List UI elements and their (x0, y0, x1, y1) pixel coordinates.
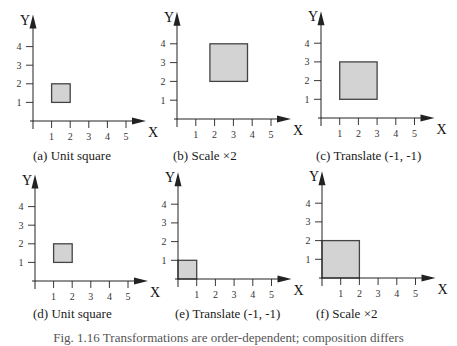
y-arrow-icon (32, 175, 39, 189)
y-arrow-icon (319, 171, 326, 185)
y-tick-label: 2 (17, 78, 22, 89)
square-shape (322, 241, 359, 278)
panel-b: 123451234XY (161, 10, 304, 140)
y-tick-label: 4 (162, 199, 167, 210)
x-tick-label: 4 (250, 289, 255, 300)
x-tick-label: 1 (338, 288, 343, 299)
y-tick-label: 3 (161, 57, 166, 68)
x-tick-label: 4 (394, 288, 399, 299)
x-axis-label: X (294, 283, 304, 298)
x-tick-label: 5 (124, 131, 129, 142)
x-axis-label: X (437, 122, 447, 137)
y-tick-label: 3 (162, 217, 167, 228)
y-tick-label: 4 (17, 41, 22, 52)
x-tick-label: 4 (250, 129, 255, 140)
x-tick-label: 5 (412, 128, 417, 139)
y-tick-label: 4 (19, 201, 24, 212)
panel-caption-f: (f) Scale ×2 (316, 306, 377, 322)
y-tick-label: 2 (162, 236, 167, 247)
x-tick-label: 1 (49, 131, 54, 142)
y-tick-label: 3 (17, 60, 22, 71)
y-tick-label: 2 (19, 238, 24, 249)
x-tick-label: 4 (107, 291, 112, 302)
y-tick-label: 4 (161, 38, 166, 49)
y-arrow-icon (175, 172, 182, 186)
square-shape (210, 44, 248, 82)
x-tick-label: 5 (269, 129, 274, 140)
y-axis-label: Y (164, 10, 174, 25)
panel-e: 123451234XY (162, 170, 304, 300)
x-axis-label: X (438, 282, 448, 297)
x-arrow-icon (134, 278, 148, 285)
x-axis-label: X (148, 125, 158, 140)
panel-d: 123451234XY (19, 173, 161, 302)
y-tick-label: 1 (17, 97, 22, 108)
x-tick-label: 1 (193, 129, 198, 140)
x-tick-label: 2 (357, 288, 362, 299)
x-arrow-icon (421, 115, 435, 122)
x-tick-label: 4 (393, 128, 398, 139)
panel-a: 123451234XY (17, 13, 159, 142)
x-tick-label: 3 (88, 291, 93, 302)
y-axis-label: Y (165, 170, 175, 185)
panel-caption-b: (b) Scale ×2 (173, 148, 237, 164)
x-tick-label: 3 (231, 129, 236, 140)
x-tick-label: 5 (126, 291, 131, 302)
square-shape (340, 62, 377, 99)
x-tick-label: 2 (356, 128, 361, 139)
panel-f: 123451234XY (306, 169, 448, 299)
x-arrow-icon (132, 118, 146, 125)
square-shape (54, 244, 73, 263)
x-tick-label: 3 (86, 131, 91, 142)
y-tick-label: 4 (305, 38, 310, 49)
x-tick-label: 1 (194, 289, 199, 300)
x-tick-label: 2 (68, 131, 73, 142)
panel-caption-e: (e) Translate (-1, -1) (175, 306, 280, 322)
panel-c: 123451234XY (305, 9, 447, 139)
y-axis-label: Y (309, 169, 319, 184)
y-tick-label: 1 (161, 95, 166, 106)
y-tick-label: 3 (306, 216, 311, 227)
y-tick-label: 1 (162, 255, 167, 266)
figure-caption: Fig. 1.16 Transformations are order-depe… (0, 330, 457, 346)
y-arrow-icon (318, 11, 325, 25)
y-tick-label: 2 (306, 235, 311, 246)
x-tick-label: 1 (337, 128, 342, 139)
x-tick-label: 2 (213, 289, 218, 300)
y-arrow-icon (30, 15, 37, 29)
y-tick-label: 2 (305, 75, 310, 86)
x-tick-label: 5 (269, 289, 274, 300)
x-tick-label: 4 (105, 131, 110, 142)
square-shape (178, 260, 197, 279)
y-tick-label: 3 (19, 220, 24, 231)
x-axis-label: X (150, 285, 160, 300)
y-tick-label: 1 (306, 254, 311, 265)
x-arrow-icon (277, 116, 291, 123)
x-axis-label: X (293, 123, 303, 138)
y-tick-label: 2 (161, 76, 166, 87)
x-tick-label: 3 (376, 288, 381, 299)
y-arrow-icon (174, 12, 181, 26)
y-tick-label: 1 (19, 257, 24, 268)
y-tick-label: 1 (305, 94, 310, 105)
y-tick-label: 3 (305, 56, 310, 67)
x-tick-label: 3 (232, 289, 237, 300)
x-tick-label: 5 (413, 288, 418, 299)
y-tick-label: 4 (306, 198, 311, 209)
square-shape (52, 84, 71, 103)
x-arrow-icon (422, 275, 436, 282)
x-tick-label: 2 (70, 291, 75, 302)
panel-caption-c: (c) Translate (-1, -1) (316, 148, 421, 164)
y-axis-label: Y (22, 173, 32, 188)
x-arrow-icon (278, 276, 292, 283)
y-axis-label: Y (308, 9, 318, 24)
x-tick-label: 1 (51, 291, 56, 302)
panel-caption-a: (a) Unit square (33, 148, 111, 164)
x-tick-label: 3 (375, 128, 380, 139)
y-axis-label: Y (20, 13, 30, 28)
x-tick-label: 2 (212, 129, 217, 140)
panel-caption-d: (d) Unit square (33, 306, 112, 322)
